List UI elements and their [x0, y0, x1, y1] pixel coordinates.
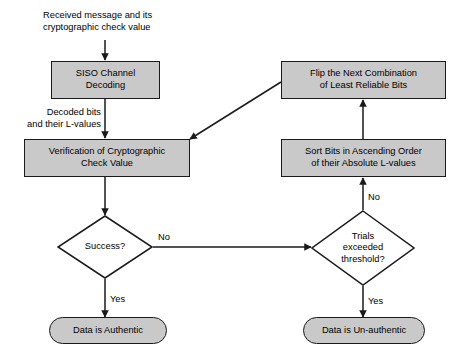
node-siso-channel-decoding: SISO Channel Decoding	[51, 61, 160, 99]
node-siso-label: SISO Channel Decoding	[76, 68, 135, 91]
node-flip-next-combination: Flip the Next Combination of Least Relia…	[281, 61, 446, 99]
flowchart-canvas: SISO Channel Decoding Verification of Cr…	[0, 0, 456, 364]
node-verification-label: Verification of Cryptographic Check Valu…	[49, 146, 165, 169]
node-data-is-unauthentic: Data is Un-authentic	[303, 317, 425, 344]
edge-flip-to-verification	[190, 82, 281, 139]
node-sort-bits-ascending: Sort Bits in Ascending Order of their Ab…	[281, 139, 446, 177]
edge-label-success-no: No	[158, 232, 170, 242]
edge-label-trials-yes: Yes	[368, 296, 383, 306]
annotation-input-message: Received message and its cryptographic c…	[43, 9, 152, 33]
annotation-decoded-bits: Decoded bits and their L-values	[10, 106, 101, 130]
node-trials-decision: Trials exceeded threshold?	[311, 210, 415, 286]
node-authentic-label: Data is Authentic	[73, 325, 143, 337]
node-success-decision: Success?	[57, 215, 153, 279]
node-flip-label: Flip the Next Combination of Least Relia…	[310, 68, 417, 91]
edge-label-trials-no: No	[368, 192, 380, 202]
flowchart-edges	[0, 0, 456, 364]
node-sort-label: Sort Bits in Ascending Order of their Ab…	[305, 146, 422, 169]
edge-label-success-yes: Yes	[110, 294, 125, 304]
node-success-label: Success?	[57, 215, 153, 279]
node-verification-of-cryptographic-check-value: Verification of Cryptographic Check Valu…	[24, 139, 190, 177]
node-trials-label: Trials exceeded threshold?	[311, 210, 415, 286]
node-data-is-authentic: Data is Authentic	[49, 317, 167, 344]
node-unauthentic-label: Data is Un-authentic	[322, 325, 406, 337]
